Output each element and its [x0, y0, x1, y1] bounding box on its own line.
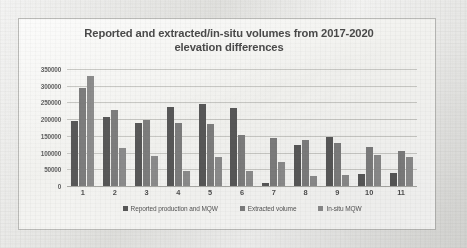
- bar: [270, 138, 277, 186]
- bar-group: [385, 69, 417, 186]
- y-axis-tick-label: 200000: [41, 116, 61, 123]
- x-axis-tick-labels: 1234567891011: [67, 188, 417, 197]
- bar: [374, 155, 381, 186]
- bar: [79, 88, 86, 186]
- x-axis-tick-label: 9: [322, 188, 354, 197]
- y-axis-tick-label: 250000: [41, 99, 61, 106]
- bar: [119, 148, 126, 186]
- y-axis-tick-label: 100000: [41, 149, 61, 156]
- bar: [183, 171, 190, 186]
- bar-group: [258, 69, 290, 186]
- legend-swatch-icon: [240, 206, 245, 211]
- legend-label: Extracted volume: [248, 205, 297, 212]
- bar: [238, 135, 245, 186]
- bar: [310, 176, 317, 186]
- x-axis-tick-label: 11: [385, 188, 417, 197]
- legend-item[interactable]: Reported production and MQW: [123, 205, 218, 212]
- bar-group: [353, 69, 385, 186]
- bar: [358, 174, 365, 186]
- x-axis-tick-label: 5: [194, 188, 226, 197]
- bar: [111, 110, 118, 186]
- bar: [215, 157, 222, 186]
- bar-groups: [67, 69, 417, 186]
- bar: [302, 140, 309, 186]
- y-axis-tick-label: 300000: [41, 82, 61, 89]
- bar: [175, 123, 182, 186]
- bar: [262, 183, 269, 186]
- bar-group: [131, 69, 163, 186]
- bar-group: [194, 69, 226, 186]
- x-axis-tick-label: 6: [226, 188, 258, 197]
- bar: [326, 137, 333, 186]
- y-axis-tick-label: 0: [58, 183, 61, 190]
- bar: [366, 147, 373, 186]
- bar-group: [226, 69, 258, 186]
- bar: [294, 145, 301, 186]
- bar: [207, 124, 214, 186]
- chart-legend: Reported production and MQWExtracted vol…: [67, 205, 417, 212]
- x-axis-tick-label: 8: [290, 188, 322, 197]
- legend-item[interactable]: In-situ MQW: [318, 205, 361, 212]
- bar: [103, 117, 110, 186]
- bar: [230, 108, 237, 186]
- legend-label: In-situ MQW: [326, 205, 361, 212]
- bar: [342, 175, 349, 186]
- bar: [278, 162, 285, 186]
- legend-swatch-icon: [123, 206, 128, 211]
- bar: [199, 104, 206, 186]
- bar: [143, 120, 150, 186]
- legend-label: Reported production and MQW: [131, 205, 218, 212]
- legend-item[interactable]: Extracted volume: [240, 205, 297, 212]
- bar: [151, 156, 158, 186]
- bar-group: [67, 69, 99, 186]
- x-axis-tick-label: 10: [353, 188, 385, 197]
- x-axis-tick-label: 2: [99, 188, 131, 197]
- plot-wrapper: 3500003000002500002000001500001000005000…: [19, 19, 437, 231]
- legend-swatch-icon: [318, 206, 323, 211]
- chart-card: Reported and extracted/in-situ volumes f…: [18, 18, 436, 230]
- y-axis-tick-label: 150000: [41, 132, 61, 139]
- bar: [246, 171, 253, 186]
- bar: [398, 151, 405, 186]
- bar: [71, 121, 78, 186]
- bar: [87, 76, 94, 186]
- plot-area: [67, 69, 417, 186]
- gridline: [67, 186, 417, 187]
- bar-group: [99, 69, 131, 186]
- bar: [390, 173, 397, 186]
- x-axis-tick-label: 4: [162, 188, 194, 197]
- x-axis-tick-label: 3: [131, 188, 163, 197]
- y-axis-tick-labels: 3500003000002500002000001500001000005000…: [19, 69, 64, 186]
- bar: [167, 107, 174, 186]
- y-axis-tick-label: 50000: [44, 166, 61, 173]
- bar: [135, 123, 142, 186]
- y-axis-tick-label: 350000: [41, 66, 61, 73]
- bar-group: [162, 69, 194, 186]
- bar: [334, 143, 341, 186]
- bar-group: [290, 69, 322, 186]
- bar: [406, 157, 413, 186]
- x-axis-tick-label: 1: [67, 188, 99, 197]
- x-axis-tick-label: 7: [258, 188, 290, 197]
- bar-group: [322, 69, 354, 186]
